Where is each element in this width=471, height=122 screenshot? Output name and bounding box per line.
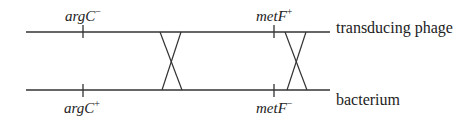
argc-plus-label: argC+ [64,99,100,116]
transducing-phage-label: transducing phage [336,20,453,36]
argc-minus-label: argC− [65,7,101,24]
bacterium-label: bacterium [336,92,400,108]
metf-plus-label: metF+ [256,7,292,24]
crossover-left [160,32,182,90]
crossover-right [285,32,307,90]
metf-minus-label: metF− [256,99,292,116]
